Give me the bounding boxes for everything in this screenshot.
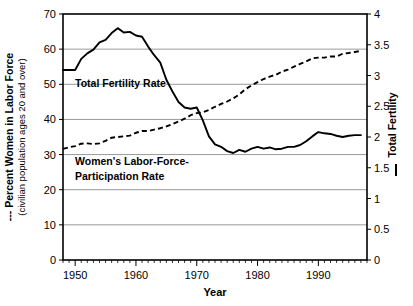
y-axis-left-tick-label: 20 bbox=[44, 184, 56, 196]
x-axis-tick-label: 1980 bbox=[245, 269, 269, 281]
y-axis-right-tick-label: 3.5 bbox=[374, 39, 389, 51]
x-axis-tick-label: 1990 bbox=[306, 269, 330, 281]
annotation-total-fertility-rate: Total Fertility Rate bbox=[75, 77, 166, 89]
y-axis-right-tick-label: 0.5 bbox=[374, 223, 389, 235]
y-axis-left-tick-label: 30 bbox=[44, 149, 56, 161]
y-axis-left-tick-label: 60 bbox=[44, 43, 56, 55]
y-axis-left-tick-label: 0 bbox=[50, 254, 56, 266]
y-axis-right-tick-label: 3 bbox=[374, 70, 380, 82]
y-axis-left-title: --- Percent Women in Labor Force bbox=[3, 53, 15, 222]
y-axis-left-tick-label: 10 bbox=[44, 219, 56, 231]
y-axis-left-tick-labels: 010203040506070 bbox=[44, 8, 56, 266]
x-axis-ticks bbox=[63, 260, 367, 266]
chart-figure: 010203040506070 00.511.522.533.54 195019… bbox=[0, 0, 413, 306]
series-line-total-fertility bbox=[63, 28, 361, 153]
line-chart: 010203040506070 00.511.522.533.54 195019… bbox=[0, 0, 413, 306]
annotation-labor-force-line1: Women's Labor-Force- bbox=[75, 155, 189, 167]
y-axis-right-tick-label: 2 bbox=[374, 131, 380, 143]
gridlines bbox=[63, 49, 367, 225]
x-axis-title: Year bbox=[203, 286, 227, 298]
y-axis-right-title: Total Fertility bbox=[386, 92, 398, 157]
y-axis-left-tick-label: 50 bbox=[44, 78, 56, 90]
y-axis-left-subtitle: (civilian population ages 20 and over) bbox=[16, 58, 27, 215]
x-axis-tick-label: 1960 bbox=[124, 269, 148, 281]
y-axis-right-tick-label: 1.5 bbox=[374, 162, 389, 174]
x-axis-tick-label: 1970 bbox=[185, 269, 209, 281]
y-axis-right-tick-label: 1 bbox=[374, 193, 380, 205]
y-axis-left-tick-label: 40 bbox=[44, 113, 56, 125]
y-axis-left-tick-label: 70 bbox=[44, 8, 56, 20]
annotation-labor-force-line2: Participation Rate bbox=[75, 170, 164, 182]
y-axis-right-tick-label: 0 bbox=[374, 254, 380, 266]
x-axis-tick-labels: 19501960197019801990 bbox=[63, 269, 331, 281]
x-axis-tick-label: 1950 bbox=[63, 269, 87, 281]
y-axis-right-tick-label: 4 bbox=[374, 8, 380, 20]
plot-frame bbox=[63, 14, 367, 260]
